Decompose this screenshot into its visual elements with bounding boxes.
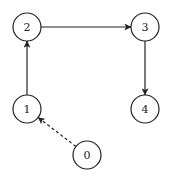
node-3: 3: [131, 13, 159, 41]
graph-svg: 01234: [0, 0, 171, 181]
node-label: 3: [142, 21, 149, 34]
node-label: 4: [142, 103, 149, 116]
graph-canvas: 01234: [0, 0, 171, 181]
edge-0-to-1: [38, 118, 76, 147]
nodes-layer: 01234: [13, 13, 159, 169]
node-label: 1: [24, 103, 31, 116]
node-2: 2: [13, 13, 41, 41]
node-label: 2: [24, 21, 31, 34]
node-label: 0: [84, 149, 91, 162]
edges-layer: [27, 27, 145, 146]
node-1: 1: [13, 95, 41, 123]
node-0: 0: [73, 141, 101, 169]
node-4: 4: [131, 95, 159, 123]
